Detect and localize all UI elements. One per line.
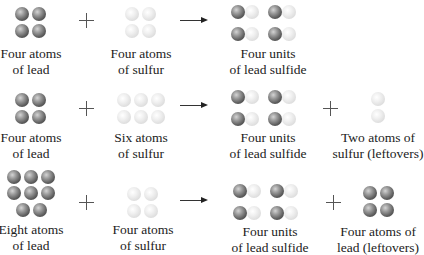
- row3-leftover-label: Four atoms of lead (leftovers): [337, 224, 419, 255]
- sulfur-atom: [245, 5, 259, 19]
- sulfur-atom: [134, 93, 148, 107]
- row3-reactant1-label: Eight atoms of lead: [0, 222, 63, 254]
- arrow-right-icon: [180, 197, 208, 204]
- arrow-right-icon: [180, 17, 208, 24]
- sulfur-atom: [134, 110, 148, 124]
- lead-atom: [32, 93, 46, 107]
- lead-atom: [231, 5, 245, 19]
- lead-atom: [32, 24, 46, 38]
- lead-atom: [24, 170, 38, 184]
- lead-atom: [16, 203, 30, 217]
- sulfur-atom: [151, 110, 165, 124]
- lead-atom: [231, 27, 245, 41]
- sulfur-atom: [125, 7, 139, 21]
- lead-atom: [41, 170, 55, 184]
- lead-atom: [32, 7, 46, 21]
- lead-atom: [268, 90, 282, 104]
- sulfur-atom: [247, 206, 261, 220]
- sulfur-atom: [247, 184, 261, 198]
- lead-atom: [231, 90, 245, 104]
- sulfur-atom: [284, 206, 298, 220]
- lead-atom: [15, 110, 29, 124]
- lead-atom: [7, 186, 21, 200]
- row1-reactant1-label: Four atoms of lead: [0, 46, 61, 78]
- sulfur-atom: [245, 27, 259, 41]
- plus-icon: [79, 195, 94, 210]
- row1-reactant2-label: Four atoms of sulfur: [110, 46, 171, 78]
- lead-atom: [32, 110, 46, 124]
- plus-icon: [79, 13, 94, 28]
- row1-product-label: Four units of lead sulfide: [229, 46, 306, 78]
- sulfur-atom: [144, 204, 158, 218]
- plus-icon: [79, 101, 94, 116]
- lead-atom: [15, 93, 29, 107]
- sulfur-atom: [371, 92, 385, 106]
- lead-atom: [7, 170, 21, 184]
- row2-leftover-label: Two atoms of sulfur (leftovers): [332, 130, 423, 162]
- lead-atom: [24, 186, 38, 200]
- arrow-right-icon: [180, 102, 208, 109]
- lead-atom: [41, 186, 55, 200]
- sulfur-atom: [282, 5, 296, 19]
- sulfur-atom: [142, 24, 156, 38]
- row3-product-label: Four units of lead sulfide: [231, 224, 308, 255]
- sulfur-atom: [282, 27, 296, 41]
- sulfur-atom: [282, 90, 296, 104]
- plus-icon: [326, 195, 341, 210]
- row2-product-label: Four units of lead sulfide: [229, 130, 306, 162]
- sulfur-atom: [125, 24, 139, 38]
- row2-reactant1-label: Four atoms of lead: [0, 130, 61, 162]
- sulfur-atom: [245, 112, 259, 126]
- row2-reactant2-label: Six atoms of sulfur: [114, 130, 168, 162]
- row3-reactant2-label: Four atoms of sulfur: [112, 222, 173, 254]
- lead-atom: [233, 184, 247, 198]
- lead-atom: [268, 112, 282, 126]
- lead-atom: [380, 203, 394, 217]
- sulfur-atom: [127, 204, 141, 218]
- lead-atom: [363, 203, 377, 217]
- sulfur-atom: [144, 187, 158, 201]
- lead-atom: [380, 186, 394, 200]
- lead-atom: [33, 203, 47, 217]
- sulfur-atom: [127, 187, 141, 201]
- sulfur-atom: [151, 93, 165, 107]
- sulfur-atom: [282, 112, 296, 126]
- lead-atom: [15, 24, 29, 38]
- sulfur-atom: [142, 7, 156, 21]
- lead-atom: [15, 7, 29, 21]
- sulfur-atom: [245, 90, 259, 104]
- lead-atom: [363, 186, 377, 200]
- sulfur-atom: [117, 110, 131, 124]
- sulfur-atom: [284, 184, 298, 198]
- lead-atom: [233, 206, 247, 220]
- lead-atom: [270, 206, 284, 220]
- sulfur-atom: [117, 93, 131, 107]
- lead-atom: [268, 27, 282, 41]
- plus-icon: [323, 101, 338, 116]
- lead-atom: [231, 112, 245, 126]
- lead-atom: [270, 184, 284, 198]
- sulfur-atom: [371, 109, 385, 123]
- lead-atom: [268, 5, 282, 19]
